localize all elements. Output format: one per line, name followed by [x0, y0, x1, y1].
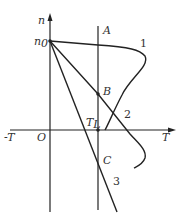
- mechanical-characteristic-diagram: n n0 A 1 B 2 TL -T O T C 3: [0, 0, 183, 219]
- n-axis-label: n: [38, 14, 45, 27]
- tl-label: TL: [86, 116, 101, 131]
- curve-3-label: 3: [113, 175, 120, 188]
- point-a-label: A: [102, 24, 111, 37]
- neg-t-label: -T: [4, 131, 16, 144]
- point-c-label: C: [103, 154, 112, 167]
- curve-1-label: 1: [140, 37, 147, 50]
- n-axis-arrow-icon: [48, 13, 53, 21]
- b-point: [96, 92, 100, 96]
- diagram: n n0 A 1 B 2 TL -T O T C 3: [0, 0, 183, 219]
- n0-point: [48, 39, 52, 43]
- t-axis-label: T: [162, 131, 171, 144]
- n0-label: n0: [34, 35, 48, 50]
- curve-2-label: 2: [124, 108, 131, 121]
- point-b-label: B: [102, 85, 111, 98]
- origin-label: O: [37, 131, 46, 144]
